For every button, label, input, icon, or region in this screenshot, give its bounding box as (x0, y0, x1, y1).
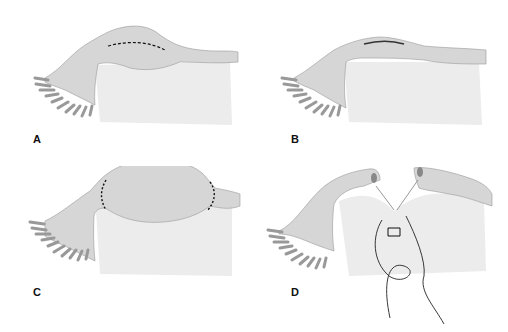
panel-label-c: C (33, 286, 41, 298)
panel-b: B (254, 0, 508, 166)
panel-d: D (254, 166, 508, 332)
panel-label-a: A (33, 133, 41, 145)
panel-label-d: D (291, 286, 299, 298)
panel-a: A (0, 0, 254, 166)
panel-label-b: B (291, 133, 299, 145)
oviduct-illustration-c (0, 166, 254, 332)
panel-c: C (0, 166, 254, 332)
oviduct-illustration-d (254, 166, 508, 332)
